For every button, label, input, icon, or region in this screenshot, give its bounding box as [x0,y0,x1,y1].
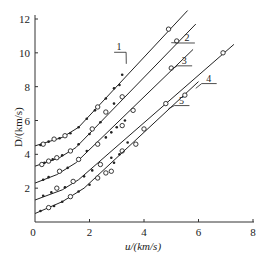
data-point-filled [66,167,69,170]
data-point-open [166,27,170,31]
x-axis-label: u/(km/s) [125,240,161,253]
x-tick-label: 4 [141,226,147,238]
data-point-open [134,142,138,146]
data-point-open [71,179,75,183]
data-point-filled [69,132,72,135]
data-point-open [104,110,108,114]
data-point-open [95,105,99,109]
line-label-text: 4 [206,73,211,84]
data-point-filled [99,121,102,124]
data-point-open [76,157,80,161]
data-point-filled [61,154,64,157]
data-point-filled [85,150,88,153]
shock-velocity-chart: 12345 0246824681012 u/(km/s) D/(km/s) [0,0,263,257]
data-point-filled [113,87,116,90]
data-point-filled [91,169,94,172]
series-5 [35,82,199,214]
y-tick-label: 12 [19,13,30,25]
line-label-text: 3 [182,55,187,66]
data-point-filled [126,141,129,144]
data-point-filled [61,200,64,203]
data-point-open [63,134,67,138]
data-point-open [68,149,72,153]
line-label-text: 2 [184,32,189,43]
y-tick-label: 2 [25,182,31,194]
series-1 [35,11,188,147]
data-point-open [46,159,50,163]
data-point-filled [77,126,80,129]
data-point-filled [43,161,46,164]
line-label-text: 5 [179,95,184,106]
y-axis-label: D/(km/s) [12,107,25,147]
series-2 [35,24,196,167]
data-point-open [41,142,45,146]
data-point-open [46,205,50,209]
data-point-filled [88,133,91,136]
data-point-open [55,186,59,190]
y-tick-label: 10 [19,47,31,59]
series-line [35,82,199,214]
data-point-filled [85,118,88,121]
line-label-3: 3 [171,55,192,70]
data-point-filled [118,84,121,87]
data-point-filled [53,205,56,208]
x-tick-label: 2 [87,226,93,238]
data-point-open [120,123,124,127]
data-point-open [55,156,59,160]
plot-area: 12345 [35,11,234,214]
data-point-filled [64,186,67,189]
data-point-filled [51,158,54,161]
y-tick-label: 4 [25,148,31,160]
data-point-filled [105,97,108,100]
data-point-filled [47,140,50,143]
data-point-open [104,171,108,175]
data-point-open [98,162,102,166]
y-tick-label: 6 [25,115,31,127]
data-point-open [95,142,99,146]
ticks: 0246824681012 [19,13,256,238]
data-point-open [109,169,113,173]
data-point-open [52,137,56,141]
data-point-filled [105,136,108,139]
line-label-text: 1 [117,41,122,52]
series-line [35,24,196,166]
data-point-filled [77,190,80,193]
data-point-filled [124,119,127,122]
data-point-filled [47,176,50,179]
data-point-filled [42,178,45,181]
data-point-filled [110,156,113,159]
line-label-1: 1 [114,41,126,64]
data-point-open [95,176,99,180]
data-point-open [57,169,61,173]
axes [35,15,254,222]
x-tick-label: 8 [250,226,256,238]
data-point-filled [42,194,45,197]
x-tick-label: 0 [30,226,36,238]
data-point-filled [113,161,116,164]
data-point-filled [113,102,116,105]
data-point-filled [121,74,124,77]
data-point-open [90,127,94,131]
data-point-open [120,95,124,99]
data-point-filled [118,153,121,156]
data-point-filled [77,143,80,146]
data-point-filled [110,131,113,134]
data-point-filled [50,191,53,194]
data-point-open [68,194,72,198]
data-point-filled [39,144,42,147]
data-point-filled [115,126,118,129]
data-point-filled [83,175,86,178]
data-point-filled [58,137,61,140]
data-point-filled [94,109,97,112]
series-line [35,11,188,146]
x-tick-label: 6 [196,226,202,238]
data-point-filled [39,210,42,213]
data-point-open [221,51,225,55]
data-point-filled [88,183,91,186]
chart-canvas: 12345 0246824681012 u/(km/s) D/(km/s) [0,0,263,257]
data-point-open [131,108,135,112]
data-point-open [164,101,168,105]
y-tick-label: 8 [25,81,31,93]
